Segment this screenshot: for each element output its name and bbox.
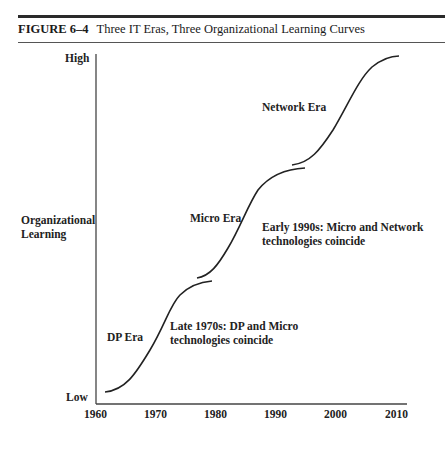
x-tick-1960: 1960 [84, 408, 107, 420]
early90s-annotation-line1: Early 1990s: Micro and Network [262, 221, 424, 234]
early90s-annotation-line2: technologies coincide [262, 235, 365, 248]
x-tick-2000: 2000 [324, 408, 347, 420]
learning-curves-chart: High Low Organizational Learning 1960 19… [0, 0, 445, 449]
network-era-label: Network Era [262, 101, 326, 113]
dp-era-label: DP Era [107, 331, 143, 343]
x-tick-1970: 1970 [144, 408, 167, 420]
y-axis-title-line2: Learning [21, 228, 67, 241]
y-low-label: Low [66, 391, 88, 403]
micro-era-label: Micro Era [190, 212, 241, 224]
y-axis-title-line1: Organizational [21, 214, 95, 227]
x-tick-1980: 1980 [204, 408, 227, 420]
x-tick-2010: 2010 [385, 408, 408, 420]
late70s-annotation-line1: Late 1970s: DP and Micro [170, 320, 298, 332]
x-tick-1990: 1990 [264, 408, 287, 420]
late70s-annotation-line2: technologies coincide [170, 334, 273, 347]
y-high-label: High [65, 52, 90, 65]
